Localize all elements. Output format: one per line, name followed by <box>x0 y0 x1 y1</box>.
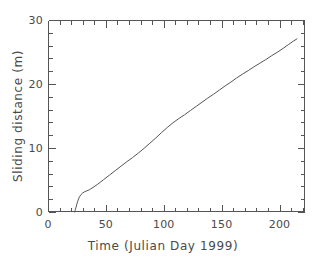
axis-frame <box>49 21 305 212</box>
y-axis-title: Sliding distance (m) <box>10 20 26 212</box>
x-tick-label: 0 <box>44 219 51 230</box>
x-tick-label: 150 <box>211 219 233 230</box>
tick-marks <box>49 21 305 213</box>
y-tick-label: 0 <box>36 207 43 218</box>
y-tick-label: 20 <box>29 79 43 90</box>
y-tick-label: 30 <box>29 15 43 26</box>
x-tick-label: 100 <box>153 219 175 230</box>
data-series-line <box>75 39 297 212</box>
y-tick-label: 10 <box>29 143 43 154</box>
chart-figure: 050100150200 0102030 Time (Julian Day 19… <box>0 0 326 264</box>
x-axis-title: Time (Julian Day 1999) <box>0 240 326 253</box>
x-tick-label: 50 <box>99 219 113 230</box>
plot-area <box>48 20 305 212</box>
x-tick-label: 200 <box>269 219 291 230</box>
plot-svg <box>48 20 305 212</box>
